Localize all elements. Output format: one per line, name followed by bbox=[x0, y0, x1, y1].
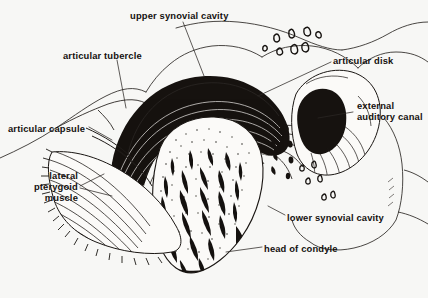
label-articular-tubercle: articular tubercle bbox=[63, 50, 142, 61]
label-articular-capsule: articular capsule bbox=[8, 123, 85, 134]
label-head-of-condyle: head of condyle bbox=[264, 243, 338, 254]
label-lateral-pterygoid-muscle: lateral pterygoid muscle bbox=[22, 170, 78, 204]
label-lower-synovial-cavity: lower synovial cavity bbox=[287, 212, 384, 223]
label-articular-disk: articular disk bbox=[333, 55, 393, 66]
label-external-auditory-canal: external auditory canal bbox=[357, 100, 423, 122]
label-upper-synovial-cavity: upper synovial cavity bbox=[130, 10, 229, 21]
anatomical-illustration: upper synovial cavity articular tubercle… bbox=[0, 0, 428, 298]
tmj-diagram-svg bbox=[0, 0, 428, 298]
